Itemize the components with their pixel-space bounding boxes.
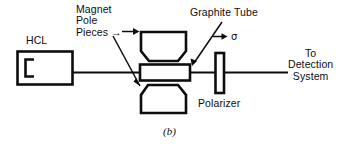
label-hcl: HCL	[26, 35, 47, 46]
sigma-direction-arrowhead	[222, 33, 228, 39]
magnet-pole-pieces-arrowhead	[133, 28, 140, 35]
label-graphite-tube: Graphite Tube	[190, 7, 258, 18]
magnet-pole-piece-bottom	[141, 85, 186, 113]
magnet-pole-piece-top	[141, 32, 186, 61]
label-polarizer: Polarizer	[198, 98, 240, 109]
zeeman-aas-schematic-figure: Magnet Pole Pieces → Graphite Tube HCL σ…	[0, 0, 348, 146]
label-to-detection-system: To Detection System	[288, 48, 333, 82]
polarizer-body	[216, 53, 225, 93]
figure-caption: (b)	[163, 126, 176, 137]
label-magnet-pole-pieces: Magnet Pole Pieces →	[76, 4, 122, 38]
graphite-tube-body	[140, 65, 190, 81]
label-sigma-polarization: σ	[231, 31, 237, 42]
leader-line-magnet-pole-bottom	[113, 36, 140, 86]
